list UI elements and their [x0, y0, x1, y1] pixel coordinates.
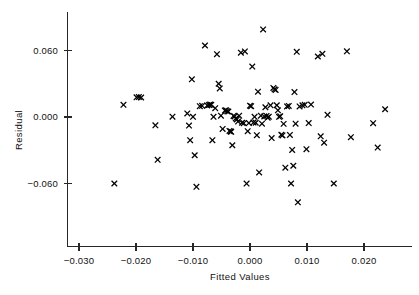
scatter-point [185, 111, 191, 117]
scatter-point [288, 181, 294, 187]
scatter-point [263, 104, 269, 110]
scatter-point [252, 114, 258, 120]
scatter-point [210, 137, 216, 143]
scatter-point [194, 184, 200, 190]
scatter-point [121, 102, 127, 108]
scatter-plot-canvas: −0.030−0.020−0.0100.0000.0100.020 0.0600… [0, 0, 419, 295]
scatter-point [190, 114, 196, 120]
y-axis-ticks: 0.0600.000−0.060 [27, 45, 71, 189]
scatter-point [189, 77, 195, 83]
scatter-point [268, 103, 274, 109]
x-tick-label: −0.030 [64, 255, 95, 266]
scatter-point [244, 181, 250, 187]
scatter-point [344, 48, 350, 54]
scatter-point [259, 121, 265, 127]
scatter-point [370, 120, 376, 126]
x-tick-label: −0.020 [121, 255, 152, 266]
y-tick-label: 0.000 [33, 111, 58, 122]
y-axis-title: Residual [13, 110, 24, 150]
x-axis-title: Fitted Values [210, 271, 270, 282]
scatter-point [294, 49, 300, 55]
scatter-point [155, 157, 161, 163]
scatter-point [187, 137, 193, 143]
scatter-point [153, 123, 159, 129]
scatter-point [214, 51, 220, 57]
scatter-point [274, 102, 280, 108]
scatter-point [292, 89, 298, 95]
x-tick-label: 0.020 [352, 255, 377, 266]
scatter-point [331, 181, 337, 187]
scatter-point [275, 108, 281, 114]
scatter-point [293, 121, 299, 127]
scatter-point [325, 112, 331, 118]
scatter-markers [112, 27, 388, 205]
scatter-point [218, 113, 224, 119]
x-tick-label: 0.010 [295, 255, 320, 266]
x-tick-label: 0.000 [238, 255, 263, 266]
scatter-point [256, 170, 262, 176]
scatter-point [382, 106, 388, 112]
scatter-point [295, 200, 301, 206]
chart-figure: −0.030−0.020−0.0100.0000.0100.020 0.0600… [0, 0, 419, 295]
scatter-point [306, 120, 312, 126]
scatter-point [211, 114, 217, 120]
scatter-point [254, 132, 260, 138]
scatter-point [216, 81, 222, 87]
y-tick-label: 0.060 [33, 45, 58, 56]
x-tick-label: −0.010 [178, 255, 209, 266]
scatter-point [220, 126, 226, 132]
scatter-point [281, 121, 287, 127]
scatter-point [255, 89, 261, 95]
scatter-point [217, 86, 223, 92]
scatter-point [249, 64, 255, 70]
scatter-point [283, 165, 289, 171]
scatter-point [308, 102, 314, 108]
scatter-point [304, 146, 310, 152]
scatter-point [192, 152, 198, 158]
scatter-point [375, 145, 381, 151]
scatter-point [269, 135, 275, 141]
scatter-point [112, 181, 118, 187]
scatter-point [245, 128, 251, 134]
scatter-point [202, 43, 208, 49]
scatter-point [291, 163, 297, 169]
scatter-point [287, 132, 293, 138]
scatter-point [260, 27, 266, 33]
scatter-point [289, 147, 295, 153]
scatter-point [348, 134, 354, 140]
scatter-point [318, 133, 324, 139]
scatter-point [186, 123, 192, 129]
scatter-point [321, 140, 327, 146]
scatter-point [212, 105, 218, 111]
scatter-point [170, 114, 176, 120]
scatter-point [230, 142, 236, 148]
y-tick-label: −0.060 [27, 178, 58, 189]
